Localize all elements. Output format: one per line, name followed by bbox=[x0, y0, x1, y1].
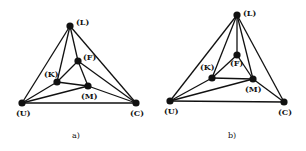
node-U bbox=[166, 97, 173, 104]
figure-caption: b) bbox=[228, 131, 236, 140]
graph-diagrams: (L)(F)(K)(M)(U)(C)a)(L)(F)(K)(M)(U)(C)b) bbox=[0, 0, 306, 151]
edge-L-U bbox=[22, 26, 70, 103]
node-M bbox=[84, 82, 91, 89]
edge-K-M bbox=[212, 78, 253, 79]
edge-L-M bbox=[237, 15, 253, 79]
node-label-L: (L) bbox=[243, 8, 256, 18]
node-label-K: (K) bbox=[44, 69, 59, 79]
node-M bbox=[249, 75, 256, 82]
edge-L-U bbox=[170, 15, 237, 101]
node-label-K: (K) bbox=[200, 62, 215, 72]
node-U bbox=[18, 99, 25, 106]
edge-K-M bbox=[57, 82, 88, 86]
edge-K-U bbox=[22, 82, 57, 103]
node-label-U: (U) bbox=[164, 106, 179, 116]
node-L bbox=[66, 22, 73, 29]
edge-F-K bbox=[57, 61, 78, 82]
node-label-M: (M) bbox=[245, 84, 262, 94]
edge-K-U bbox=[170, 78, 212, 101]
node-label-U: (U) bbox=[16, 108, 31, 118]
edge-M-U bbox=[170, 79, 253, 101]
node-label-C: (C) bbox=[278, 107, 292, 117]
edge-U-C bbox=[170, 101, 284, 102]
node-label-F: (F) bbox=[83, 52, 96, 62]
figure-caption: a) bbox=[72, 131, 80, 140]
node-C bbox=[132, 99, 139, 106]
figure-b: (L)(F)(K)(M)(U)(C)b) bbox=[164, 8, 292, 140]
node-label-L: (L) bbox=[76, 17, 89, 27]
node-label-F: (F) bbox=[230, 58, 243, 68]
edge-L-K bbox=[212, 15, 237, 78]
node-L bbox=[233, 11, 240, 18]
edge-M-U bbox=[22, 86, 88, 103]
node-C bbox=[280, 98, 287, 105]
figure-a: (L)(F)(K)(M)(U)(C)a) bbox=[16, 17, 144, 140]
edge-L-K bbox=[57, 26, 70, 82]
node-label-M: (M) bbox=[81, 91, 98, 101]
node-K bbox=[208, 74, 215, 81]
node-F bbox=[74, 57, 81, 64]
node-K bbox=[53, 78, 60, 85]
node-label-C: (C) bbox=[130, 108, 144, 118]
